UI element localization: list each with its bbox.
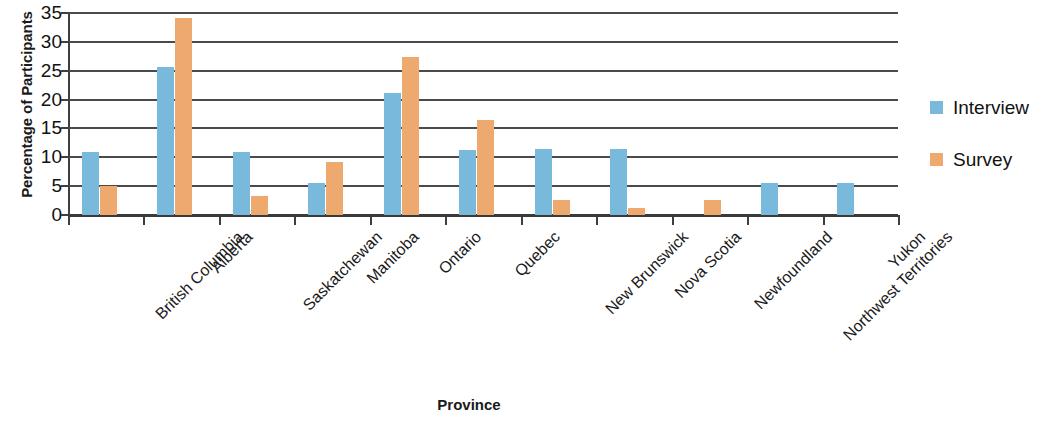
bars-layer — [68, 13, 898, 215]
bar-interview[interactable] — [384, 93, 401, 215]
bar-group — [672, 13, 747, 215]
bar-group — [294, 13, 369, 215]
bar-group — [143, 13, 218, 215]
y-axis-tick-label: 30 — [24, 32, 62, 51]
bar-interview[interactable] — [308, 183, 325, 215]
x-axis-tickmark — [672, 217, 674, 225]
x-axis-tickmark — [596, 217, 598, 225]
plot-area — [68, 13, 898, 215]
y-axis-tick-label: 20 — [24, 90, 62, 109]
x-axis-tick-label: Newfoundland — [751, 228, 835, 312]
x-axis-tickmark — [445, 217, 447, 225]
bar-group — [445, 13, 520, 215]
bar-group — [521, 13, 596, 215]
x-axis-tickmark — [898, 217, 900, 225]
bar-survey[interactable] — [628, 208, 645, 215]
bar-survey[interactable] — [477, 120, 494, 215]
y-axis-tick-label: 10 — [24, 147, 62, 166]
legend-swatch-icon — [930, 153, 943, 166]
x-axis-tickmark — [294, 217, 296, 225]
y-axis-tick-label: 35 — [24, 3, 62, 22]
bar-chart-figure: Percentage of Participants 0510152025303… — [0, 0, 1038, 426]
legend-entry[interactable]: Survey — [930, 148, 1038, 170]
y-axis-tick-label: 25 — [24, 61, 62, 80]
bar-survey[interactable] — [704, 200, 721, 215]
bar-survey[interactable] — [326, 162, 343, 215]
legend-label: Interview — [953, 97, 1029, 118]
bar-group — [747, 13, 822, 215]
x-axis-tickmark — [747, 217, 749, 225]
x-axis-tickmark — [823, 217, 825, 225]
x-axis-tick-label: Quebec — [511, 228, 563, 280]
bar-interview[interactable] — [82, 152, 99, 215]
legend-label: Survey — [953, 149, 1012, 170]
chart-legend: InterviewSurvey — [930, 96, 1038, 200]
bar-interview[interactable] — [233, 152, 250, 215]
bar-interview[interactable] — [837, 183, 854, 215]
bar-survey[interactable] — [251, 196, 268, 215]
bar-group — [68, 13, 143, 215]
bar-group — [219, 13, 294, 215]
y-axis-tick-label: 15 — [24, 118, 62, 137]
x-axis-line — [68, 215, 900, 217]
bar-group — [596, 13, 671, 215]
y-axis-tick-label: 5 — [24, 176, 62, 195]
x-axis-tick-label: New Brunswick — [602, 228, 691, 317]
bar-survey[interactable] — [553, 200, 570, 215]
y-axis-tick-label: 0 — [24, 205, 62, 224]
bar-interview[interactable] — [610, 149, 627, 215]
x-axis-tickmark — [68, 217, 70, 225]
bar-survey[interactable] — [402, 57, 419, 215]
bar-interview[interactable] — [761, 183, 778, 215]
x-axis-tickmark — [370, 217, 372, 225]
x-axis-tickmark — [521, 217, 523, 225]
bar-interview[interactable] — [535, 149, 552, 215]
bar-group — [370, 13, 445, 215]
bar-interview[interactable] — [157, 67, 174, 215]
legend-entry[interactable]: Interview — [930, 96, 1038, 118]
y-axis-tick-labels: 05101520253035 — [24, 0, 62, 230]
bar-survey[interactable] — [175, 18, 192, 215]
legend-swatch-icon — [930, 101, 943, 114]
bar-interview[interactable] — [459, 150, 476, 215]
x-axis-tickmark — [219, 217, 221, 225]
bar-group — [823, 13, 898, 215]
x-axis-tick-label: Ontario — [435, 228, 484, 277]
bar-survey[interactable] — [100, 186, 117, 215]
x-axis-tickmark — [143, 217, 145, 225]
x-axis-title: Province — [0, 396, 938, 413]
